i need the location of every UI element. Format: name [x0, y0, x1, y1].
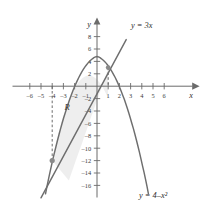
y-tick-label: –16 [81, 182, 92, 189]
intersection-point-1-3 [106, 65, 111, 70]
x-tick-label: 5 [151, 92, 154, 99]
x-tick-label: –3 [59, 92, 66, 99]
parabola-equation-label: y = 4–x² [138, 191, 168, 200]
y-axis-label: y [86, 20, 91, 29]
x-tick-label: –6 [26, 92, 33, 99]
intersection-point-m4-m12 [50, 158, 55, 163]
line-equation-label: y = 3x [130, 21, 153, 30]
graph-figure: –6 –5 –4 –3 –2 –1 1 2 3 4 5 6 [0, 0, 206, 209]
y-tick-label: –2 [84, 95, 91, 102]
axes-group [13, 18, 200, 198]
y-tick-label: 8 [88, 33, 91, 40]
x-tick-label: 4 [140, 92, 144, 99]
x-tick-label: 6 [163, 92, 166, 99]
x-tick-label: –5 [37, 92, 44, 99]
y-tick-label: –6 [84, 120, 91, 127]
y-tick-label: –8 [84, 132, 91, 139]
y-tick-label: 2 [88, 70, 91, 77]
y-tick-label: –10 [81, 145, 92, 152]
y-tick-label: 6 [88, 45, 91, 52]
y-tick-label: –12 [81, 157, 92, 164]
region-label: R [64, 102, 71, 112]
x-tick-label: 1 [107, 92, 110, 99]
x-tick-label: 2 [118, 92, 121, 99]
x-axis-label: x [188, 91, 193, 100]
x-axis-arrowhead [192, 83, 199, 90]
y-axis-arrowhead [94, 18, 101, 25]
y-tick-label: –14 [81, 169, 92, 176]
coordinate-plot: –6 –5 –4 –3 –2 –1 1 2 3 4 5 6 [0, 0, 206, 209]
x-tick-label: 3 [129, 92, 132, 99]
